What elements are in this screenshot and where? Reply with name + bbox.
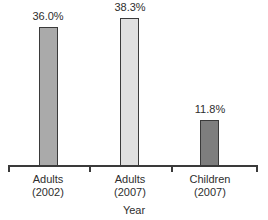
x-axis-title: Year <box>0 204 268 217</box>
category-label: Children(2007) <box>170 173 250 199</box>
bar-2 <box>120 18 139 166</box>
category-label: Adults(2002) <box>8 173 88 199</box>
x-axis-tick <box>171 166 173 172</box>
x-axis-tick <box>8 166 10 172</box>
category-label-line2: (2002) <box>8 186 88 199</box>
category-label-line1: Adults <box>8 173 88 186</box>
x-axis-tick <box>256 166 258 172</box>
bar-value-label: 38.3% <box>100 1 160 14</box>
bar-chart: Year 36.0%Adults(2002)38.3%Adults(2007)1… <box>0 0 268 220</box>
bar-value-label: 36.0% <box>18 10 78 23</box>
category-label-line1: Children <box>170 173 250 186</box>
category-label-line2: (2007) <box>90 186 170 199</box>
bar-value-label: 11.8% <box>180 103 240 116</box>
bar-1 <box>39 27 58 166</box>
x-axis-tick <box>89 166 91 172</box>
category-label-line1: Adults <box>90 173 170 186</box>
category-label-line2: (2007) <box>170 186 250 199</box>
bar-3 <box>200 120 219 166</box>
category-label: Adults(2007) <box>90 173 170 199</box>
